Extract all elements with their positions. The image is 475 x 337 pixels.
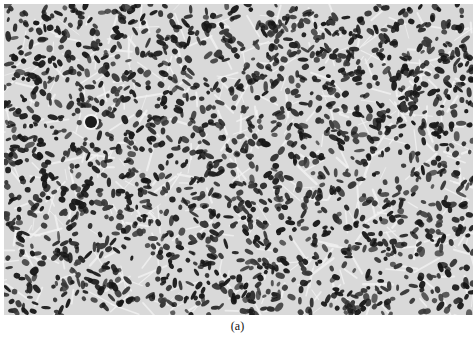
figure: (a) xyxy=(0,0,475,337)
histology-micrograph xyxy=(4,4,473,315)
figure-caption: (a) xyxy=(0,318,475,334)
micrograph-texture xyxy=(4,4,473,315)
